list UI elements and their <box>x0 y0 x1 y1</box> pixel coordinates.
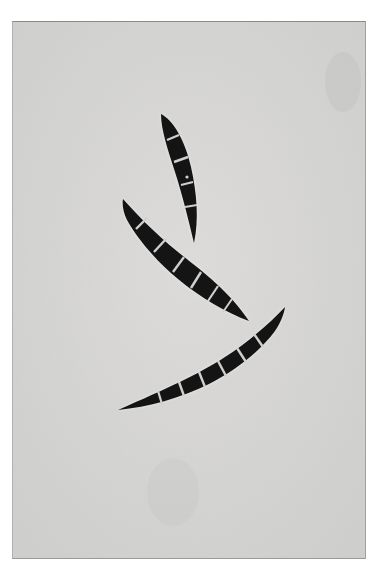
background-smudge <box>147 458 199 526</box>
micrograph-photo <box>12 21 366 559</box>
micrograph-drawing <box>13 22 365 558</box>
background-smudge <box>325 52 361 112</box>
